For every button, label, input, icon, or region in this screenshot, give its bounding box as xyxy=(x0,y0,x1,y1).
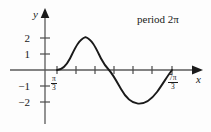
x-tick-label-7pi-over-3: 7π 3 xyxy=(168,73,178,91)
y-tick-label-2: 2 xyxy=(16,33,30,44)
fraction-pi-over-3: π 3 xyxy=(51,75,57,92)
y-axis-label: y xyxy=(33,9,38,20)
period-annotation: period 2π xyxy=(137,14,179,25)
fraction-7pi-over-3: 7π 3 xyxy=(168,74,178,91)
y-tick-label-minus-1: −1 xyxy=(12,81,30,92)
plot-area xyxy=(0,0,211,132)
x-axis-label: x xyxy=(196,74,201,85)
y-tick-label-1: 1 xyxy=(16,49,30,60)
y-tick-label-minus-2: −2 xyxy=(12,97,30,108)
y-axis-arrowhead xyxy=(41,8,50,18)
fraction-denominator: 3 xyxy=(51,84,57,92)
sine-wave-figure: y x period 2π 2 1 −1 −2 π 3 7π 3 xyxy=(0,0,211,132)
x-tick-label-pi-over-3: π 3 xyxy=(51,74,57,92)
fraction-denominator: 3 xyxy=(168,83,178,91)
